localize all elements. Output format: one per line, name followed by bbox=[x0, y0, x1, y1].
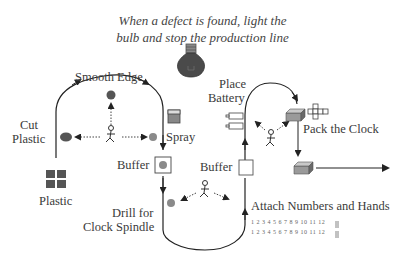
label-drill-1: Drill for bbox=[112, 206, 153, 221]
dotted-arrow-attach bbox=[214, 193, 228, 199]
label-cut-plastic: Plastic bbox=[12, 132, 45, 147]
flow-line-battery bbox=[245, 83, 297, 160]
light-bulb-icon bbox=[177, 44, 204, 77]
label-drill-2: Clock Spindle bbox=[83, 220, 154, 235]
packed-clock-icon bbox=[294, 162, 313, 174]
drill-station bbox=[167, 199, 175, 207]
battery-icon bbox=[226, 113, 243, 129]
worker-icon bbox=[266, 130, 275, 147]
clock-box-icon bbox=[286, 109, 305, 121]
worker-icon bbox=[200, 181, 209, 198]
spray-can-icon bbox=[168, 110, 180, 123]
smooth-edge-station bbox=[107, 91, 116, 100]
buffer-left-box bbox=[155, 157, 171, 173]
label-smooth-edge: Smooth Edge bbox=[75, 70, 143, 85]
label-pack-the-clock: Pack the Clock bbox=[303, 122, 379, 137]
dotted-arrow-drill bbox=[182, 193, 196, 200]
label-plastic: Plastic bbox=[39, 194, 72, 209]
label-battery: Battery bbox=[208, 91, 245, 106]
worker-icon bbox=[106, 126, 115, 143]
label-place: Place bbox=[219, 77, 246, 92]
cut-plastic-station bbox=[60, 133, 72, 142]
box-net-icon bbox=[308, 104, 328, 119]
label-cut: Cut bbox=[20, 118, 38, 133]
label-spray: Spray bbox=[166, 130, 195, 145]
flow-line-buffer-drill bbox=[163, 176, 245, 250]
buffer-right-box bbox=[239, 160, 253, 175]
flow-line-left bbox=[56, 75, 163, 158]
clock-hands-icon bbox=[336, 221, 338, 238]
label-buffer-left: Buffer bbox=[117, 158, 149, 173]
flow-arrow-7 bbox=[292, 92, 297, 100]
clock-numbers-row-2: 1 2 3 4 5 6 7 8 9 10 11 12 bbox=[251, 229, 325, 235]
dotted-arrow-pack bbox=[277, 122, 288, 130]
spray-station bbox=[149, 133, 157, 141]
label-buffer-right: Buffer bbox=[200, 160, 232, 175]
clock-numbers-row-1: 1 2 3 4 5 6 7 8 9 10 11 12 bbox=[251, 219, 325, 225]
dotted-arrow-battery bbox=[256, 122, 265, 130]
plastic-material-icon bbox=[46, 170, 66, 188]
label-attach-numbers: Attach Numbers and Hands bbox=[251, 199, 390, 214]
